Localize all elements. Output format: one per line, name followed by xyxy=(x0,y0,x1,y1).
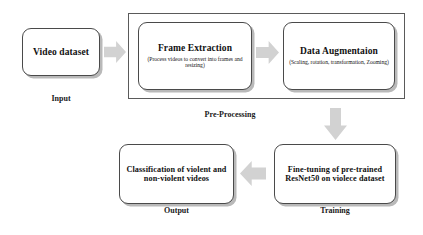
node-frame-extraction-title: Frame Extraction xyxy=(158,43,232,54)
node-fine-tuning-title: Fine-tuning of pre-trained ResNet50 on v… xyxy=(278,165,392,184)
caption-preprocessing: Pre-Processing xyxy=(170,110,290,119)
caption-training: Training xyxy=(274,206,396,215)
node-fine-tuning: Fine-tuning of pre-trained ResNet50 on v… xyxy=(274,144,396,204)
arrow-finetuning-to-classification-icon xyxy=(240,160,266,187)
flowchart-canvas: Video dataset Frame Extraction (Process … xyxy=(0,0,423,235)
arrow-augmentation-to-finetuning-icon xyxy=(323,108,348,140)
arrow-video-to-frame-icon xyxy=(104,40,126,64)
node-frame-extraction-subtitle: (Process videos to convert into frames a… xyxy=(142,56,248,69)
node-frame-extraction: Frame Extraction (Process videos to conv… xyxy=(138,22,252,90)
node-data-augmentation: Data Augmentaion (Scaling, rotation, tra… xyxy=(283,22,395,90)
node-video-dataset-title: Video dataset xyxy=(33,47,89,58)
node-classification: Classification of violent and non-violen… xyxy=(119,144,234,204)
caption-input: Input xyxy=(22,94,100,103)
node-data-augmentation-title: Data Augmentaion xyxy=(300,46,378,57)
caption-output: Output xyxy=(119,206,234,215)
node-classification-title: Classification of violent and non-violen… xyxy=(123,165,230,184)
node-data-augmentation-subtitle: (Scaling, rotation, transformation, Zoom… xyxy=(289,59,389,65)
node-video-dataset: Video dataset xyxy=(22,28,100,76)
